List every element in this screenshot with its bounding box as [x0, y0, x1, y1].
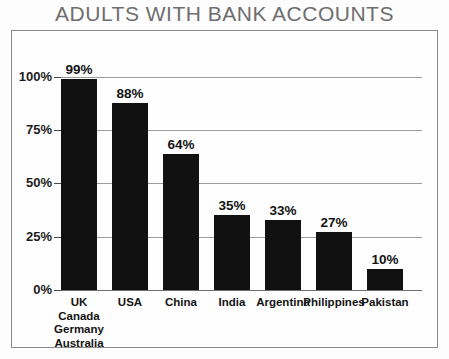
- ytick-label-50: 50%: [12, 176, 52, 189]
- tick-mark-25: [54, 237, 61, 238]
- bar-value-0: 99%: [49, 62, 109, 77]
- category-label-6-line1: Pakistan: [340, 296, 430, 310]
- category-label-0-line2: Canada: [34, 310, 124, 324]
- ytick-75-wrap: 75%: [12, 123, 52, 136]
- bar-value-2: 64%: [151, 137, 211, 152]
- category-label-0-line3: Germany: [34, 323, 124, 337]
- bar-value-1: 88%: [100, 86, 160, 101]
- bar-argentina: [265, 220, 301, 290]
- gridline-100: [61, 77, 422, 78]
- axis-baseline: [61, 290, 422, 291]
- ytick-label-25: 25%: [12, 230, 52, 243]
- ytick-label-100: 100%: [12, 70, 52, 83]
- bar-uk-canada-germany-australia: [61, 79, 97, 290]
- ytick-label-75: 75%: [12, 123, 52, 136]
- ytick-50-wrap: 50%: [12, 176, 52, 189]
- tick-mark-0: [54, 290, 61, 291]
- ytick-25-wrap: 25%: [12, 230, 52, 243]
- bar-china: [163, 154, 199, 290]
- bar-usa: [112, 103, 148, 290]
- bar-philippines: [316, 232, 352, 290]
- chart-frame: 100% 75% 50% 25% 0% 99% UK Canada German…: [11, 30, 438, 348]
- ytick-100-wrap: 100%: [12, 70, 52, 83]
- chart-screenshot: ADULTS WITH BANK ACCOUNTS 100% 75% 50%: [0, 0, 449, 359]
- tick-mark-100: [54, 77, 61, 78]
- chart-title: ADULTS WITH BANK ACCOUNTS: [0, 2, 449, 26]
- ytick-0-wrap: 0%: [12, 283, 52, 296]
- bar-pakistan: [367, 269, 403, 290]
- bar-value-6: 10%: [355, 252, 415, 267]
- ytick-label-0: 0%: [12, 283, 52, 296]
- category-label-0-line4: Australia: [34, 337, 124, 351]
- category-label-6: Pakistan: [340, 296, 430, 310]
- bar-india: [214, 215, 250, 290]
- tick-mark-75: [54, 130, 61, 131]
- plot-area: 100% 75% 50% 25% 0% 99% UK Canada German…: [12, 31, 439, 349]
- tick-mark-50: [54, 183, 61, 184]
- bar-value-5: 27%: [304, 215, 364, 230]
